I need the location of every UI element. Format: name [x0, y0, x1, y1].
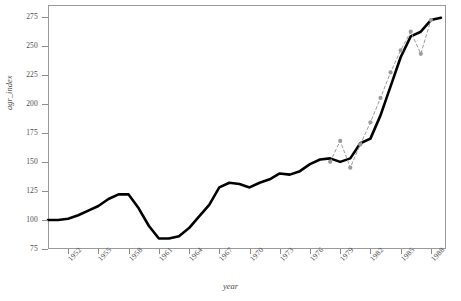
- y-tick-label: 100: [8, 215, 38, 224]
- y-tick-label: 250: [8, 41, 38, 50]
- series-line-fitted: [330, 20, 431, 168]
- y-tick-mark: [42, 104, 48, 105]
- data-point-marker: [419, 52, 423, 56]
- y-tick-mark: [42, 17, 48, 18]
- data-point-marker: [378, 96, 382, 100]
- x-axis-title: year: [0, 281, 461, 291]
- y-tick-mark: [42, 75, 48, 76]
- y-tick-label: 275: [8, 12, 38, 21]
- y-tick-mark: [42, 162, 48, 163]
- series-line-agr_index: [48, 18, 441, 239]
- data-point-marker: [358, 142, 362, 146]
- y-tick-mark: [42, 133, 48, 134]
- y-axis-title: agr_index: [4, 76, 14, 110]
- data-point-marker: [399, 48, 403, 52]
- data-point-marker: [429, 18, 433, 22]
- data-point-marker: [409, 30, 413, 34]
- data-point-marker: [328, 160, 332, 164]
- y-tick-label: 175: [8, 128, 38, 137]
- y-tick-mark: [42, 249, 48, 250]
- y-tick-mark: [42, 191, 48, 192]
- y-tick-label: 75: [8, 244, 38, 253]
- y-tick-label: 150: [8, 157, 38, 166]
- data-point-marker: [368, 120, 372, 124]
- y-tick-mark: [42, 220, 48, 221]
- data-point-marker: [348, 166, 352, 170]
- data-point-marker: [338, 139, 342, 143]
- y-tick-mark: [42, 46, 48, 47]
- chart-container: 75100125150175200225250275 1952195519581…: [0, 0, 461, 301]
- y-tick-label: 125: [8, 186, 38, 195]
- data-point-marker: [388, 70, 392, 74]
